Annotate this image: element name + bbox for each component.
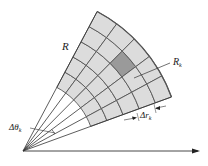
delta-theta-arc (52, 129, 55, 133)
polar-diagram: R Rk Δθk Δrk (0, 0, 208, 166)
delta-r-label: Δrk (139, 110, 152, 121)
cell-label: Rk (172, 56, 182, 68)
polar-axis (23, 149, 200, 154)
region-label: R (61, 40, 69, 52)
diagram-canvas: R Rk Δθk Δrk (0, 0, 208, 166)
grid-cells (57, 11, 172, 126)
delta-theta-label: Δθk (8, 122, 22, 133)
arrowhead-icon (192, 149, 200, 154)
